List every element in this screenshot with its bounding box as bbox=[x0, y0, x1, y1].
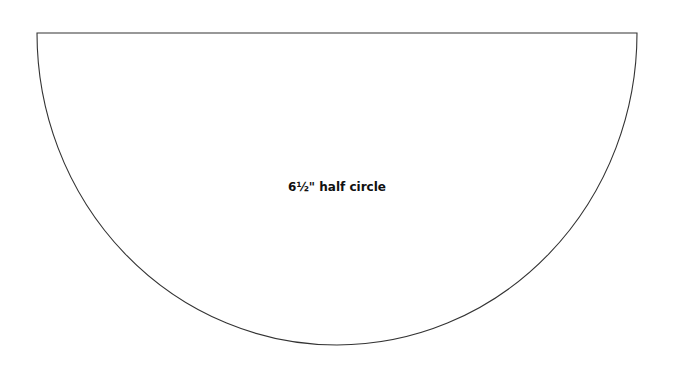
shape-label: 6½" half circle bbox=[0, 180, 674, 194]
